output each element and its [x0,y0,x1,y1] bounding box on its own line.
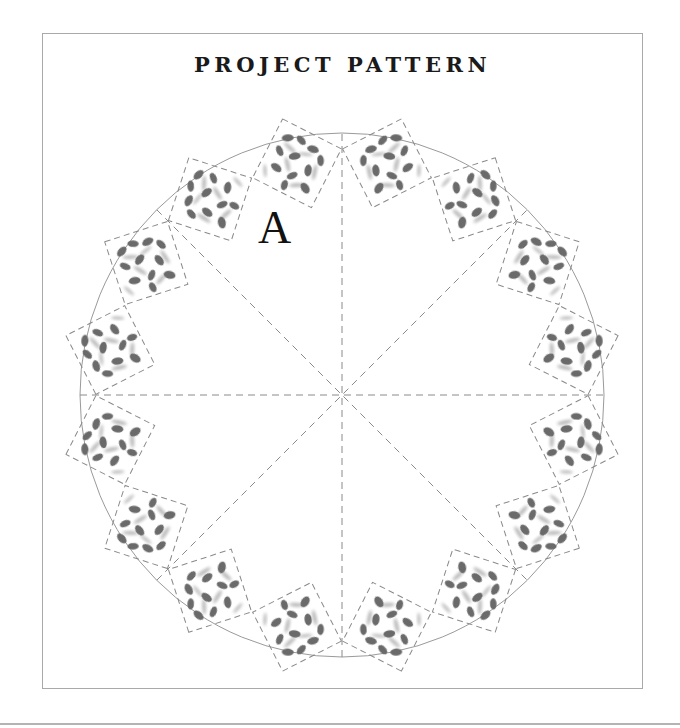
leaf-ellipse [385,609,398,619]
pattern-tile [168,549,251,632]
leaf-ellipse [543,505,556,514]
leaf-ellipse [546,448,558,457]
leaf-ellipse [187,180,194,191]
tile-outline [496,221,579,304]
leaf-ellipse [91,359,101,372]
pattern-tile [66,306,155,395]
leaf-ellipse [401,616,415,629]
tile-outline [168,549,251,632]
leaf-ellipse [490,180,497,191]
leaf-ellipse [317,155,324,167]
leaf-ellipse [545,240,556,247]
pattern-tile [343,119,432,208]
leaf-streak [536,265,552,277]
tile-outline [343,582,432,671]
tile-outline [432,158,515,241]
leaf-ellipse [102,370,114,377]
leaf-ellipse [552,518,565,528]
leaf-ellipse [372,613,381,626]
leaf-ellipse [183,582,195,596]
leaf-ellipse [108,454,121,468]
leaf-ellipse [580,327,593,337]
leaf-ellipse [452,596,461,609]
tile-outline [343,119,432,208]
leaf-streak [536,514,552,526]
leaf-ellipse [560,357,573,366]
leaf-ellipse [552,261,565,271]
leaf-streak [560,470,573,474]
leaf-ellipse [508,270,521,280]
tile-outline [253,119,342,208]
leaf-ellipse [111,425,124,434]
leaf-ellipse [216,580,229,590]
leaf-ellipse [223,596,232,609]
leaf-ellipse [200,186,214,199]
leaf-ellipse [390,134,402,142]
leaf-ellipse [81,443,89,455]
leaf-ellipse [102,413,114,420]
pattern-tile [343,582,432,671]
leaf-ellipse [304,613,313,626]
leaf-ellipse [183,194,195,208]
pattern-tile [529,306,618,395]
leaf-streak [111,364,127,371]
leaf-ellipse [538,523,551,537]
tile-outline [105,221,188,304]
leaf-ellipse [470,591,484,604]
leaf-ellipse [372,164,381,177]
leaf-ellipse [517,539,530,551]
tile-outline [168,158,251,241]
leaf-ellipse [111,357,124,366]
leaf-streak [441,602,452,614]
tile-outline [529,396,618,485]
leaf-ellipse [119,518,132,528]
leaf-ellipse [117,438,127,451]
leaf-ellipse [465,605,475,618]
leaf-streak [417,164,421,177]
leaf-ellipse [542,352,556,365]
leaf-ellipse [91,452,104,462]
leaf-ellipse [141,236,155,248]
leaf-ellipse [146,508,156,521]
leaf-ellipse [470,186,484,199]
pattern-tile [253,119,342,208]
leaf-streak [366,164,373,180]
leaf-ellipse [571,370,583,377]
leaf-ellipse [304,164,313,177]
leaf-streak [123,494,135,505]
leaf-ellipse [595,335,603,347]
leaf-streak [133,514,149,526]
leaf-ellipse [216,199,229,209]
leaf-ellipse [360,155,367,167]
leaf-ellipse [269,161,283,174]
leaf-ellipse [457,216,467,229]
leaf-ellipse [282,648,294,656]
leaf-streak [111,419,127,426]
leaf-ellipse [81,335,89,347]
leaf-ellipse [133,523,146,537]
leaf-streak [366,610,373,626]
tile-outline [105,485,188,568]
leaf-streak [212,186,224,202]
pattern-tile [496,485,579,568]
leaf-ellipse [486,208,498,221]
tile-outline [66,306,155,395]
leaf-ellipse [141,542,155,554]
leaf-ellipse [455,199,468,209]
leaf-ellipse [126,333,138,342]
leaf-streak [311,164,318,180]
leaf-ellipse [126,448,138,457]
leaf-ellipse [274,144,284,157]
circular-pattern-diagram: A [0,0,680,728]
leaf-streak [212,589,224,605]
dashed-spokes [80,133,604,657]
leaf-ellipse [119,261,132,271]
leaf-streak [461,589,473,605]
leaf-ellipse [489,194,501,208]
tile-outline [432,549,515,632]
tile-outline [253,582,342,671]
pattern-tile [529,396,618,485]
leaf-ellipse [465,172,475,185]
leaf-streak [461,186,473,202]
leaf-ellipse [452,181,461,194]
